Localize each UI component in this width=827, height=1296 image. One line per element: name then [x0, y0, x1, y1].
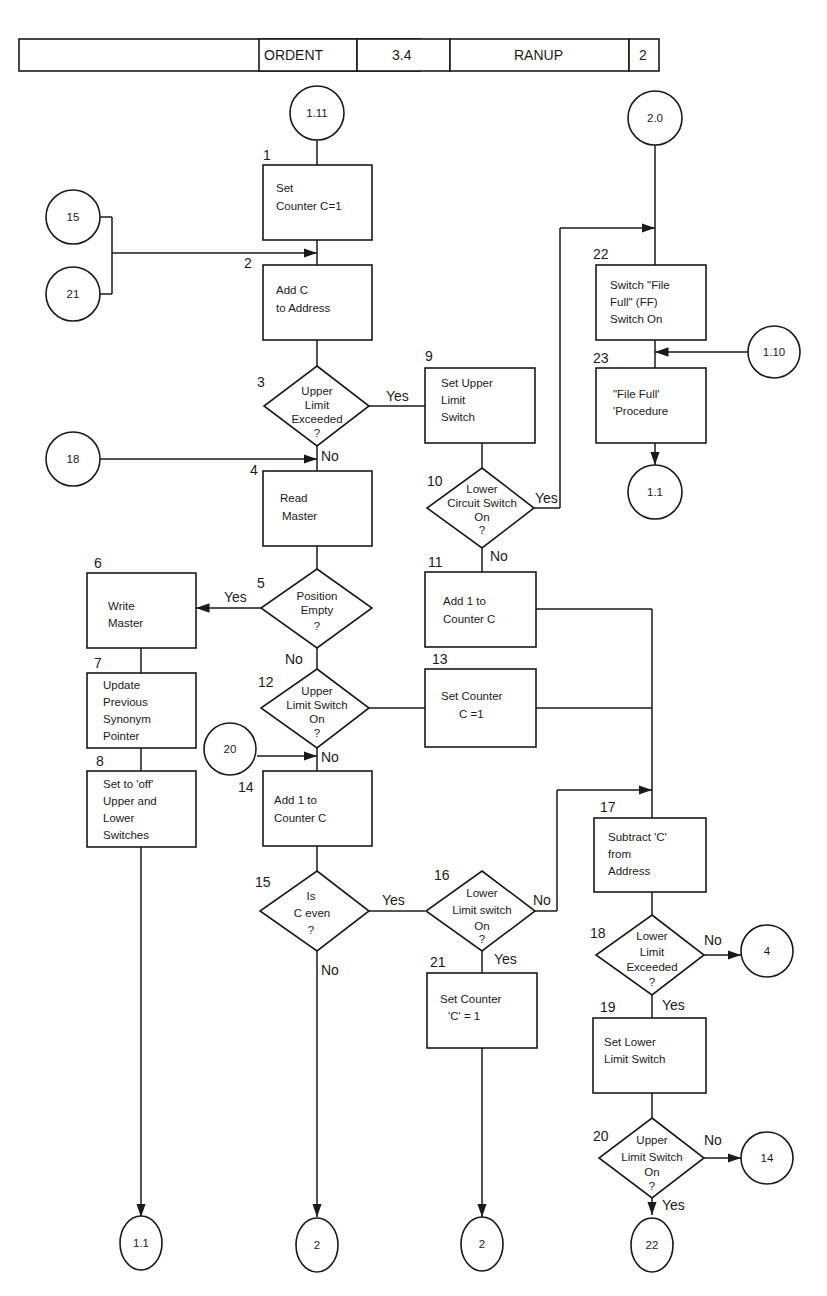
svg-text:Upper: Upper: [636, 1134, 667, 1146]
svg-text:Lower: Lower: [466, 483, 497, 495]
svg-text:Switch "File: Switch "File: [610, 279, 670, 291]
svg-text:2: 2: [244, 255, 252, 271]
svg-text:Is: Is: [307, 890, 316, 902]
connector-21: 21: [46, 267, 100, 321]
decision-3-upper-limit-exceeded: 3 Upper Limit Exceeded ?: [257, 366, 369, 446]
svg-text:Empty: Empty: [301, 604, 334, 616]
svg-text:Set Counter: Set Counter: [441, 690, 503, 702]
svg-text:Subtract 'C': Subtract 'C': [608, 831, 667, 843]
svg-text:8: 8: [96, 753, 104, 769]
dec10-no-label: No: [490, 548, 508, 564]
svg-text:14: 14: [238, 779, 254, 795]
step-2-add-c-to-address: 2 Add C to Address: [244, 255, 372, 340]
svg-text:Lower: Lower: [466, 887, 497, 899]
svg-text:13: 13: [432, 651, 448, 667]
svg-text:On: On: [474, 511, 489, 523]
svg-text:18: 18: [590, 925, 606, 941]
svg-text:Limit Switch: Limit Switch: [286, 699, 347, 711]
connector-2-0: 2.0: [628, 91, 682, 145]
svg-text:On: On: [309, 713, 324, 725]
svg-text:1.1: 1.1: [647, 486, 663, 498]
svg-text:Write: Write: [108, 600, 135, 612]
svg-text:18: 18: [67, 453, 80, 465]
svg-text:12: 12: [258, 674, 274, 690]
svg-text:Add 1 to: Add 1 to: [274, 794, 317, 806]
svg-text:22: 22: [646, 1239, 659, 1251]
connector-4: 4: [741, 925, 793, 977]
svg-text:?: ?: [479, 524, 485, 536]
svg-text:20: 20: [593, 1128, 609, 1144]
connector-1-1-top: 1.1: [628, 465, 682, 519]
svg-text:Circuit Switch: Circuit Switch: [447, 497, 517, 509]
svg-text:Update: Update: [103, 679, 140, 691]
step-4-read-master: 4 Read Master: [250, 462, 372, 546]
svg-text:"File Full': "File Full': [613, 388, 660, 400]
svg-text:10: 10: [427, 473, 443, 489]
svg-text:Set: Set: [276, 182, 294, 194]
svg-text:Upper and: Upper and: [103, 795, 157, 807]
svg-text:On: On: [644, 1166, 659, 1178]
svg-text:Limit: Limit: [441, 394, 466, 406]
svg-text:?: ?: [308, 924, 314, 936]
dec18-yes-label: Yes: [662, 997, 685, 1013]
decision-18-lower-limit-exceeded: 18 Lower Limit Exceeded ?: [590, 915, 704, 995]
svg-text:11: 11: [428, 554, 443, 570]
svg-text:3: 3: [257, 374, 265, 390]
svg-text:Counter C: Counter C: [274, 812, 326, 824]
svg-text:Master: Master: [282, 510, 317, 522]
svg-text:6: 6: [94, 555, 102, 571]
dec10-yes-label: Yes: [535, 490, 558, 506]
svg-text:4: 4: [250, 462, 258, 478]
connector-18: 18: [46, 432, 100, 486]
dec5-yes-label: Yes: [224, 589, 247, 605]
svg-text:from: from: [608, 848, 631, 860]
svg-text:Limit: Limit: [305, 399, 330, 411]
decision-20-upper-limit-switch-on: 20 Upper Limit Switch On ?: [593, 1118, 704, 1198]
connector-20: 20: [204, 723, 256, 775]
svg-text:C even: C even: [294, 907, 330, 919]
dec15-no-label: No: [321, 962, 339, 978]
svg-text:Master: Master: [108, 617, 143, 629]
svg-text:On: On: [474, 920, 489, 932]
svg-text:23: 23: [593, 350, 609, 366]
dec16-yes-label: Yes: [494, 951, 517, 967]
svg-text:Add C: Add C: [276, 284, 308, 296]
connector-1-1-bottom: 1.1: [120, 1216, 162, 1270]
svg-text:Lower: Lower: [103, 812, 134, 824]
svg-text:5: 5: [257, 575, 265, 591]
svg-text:Counter C: Counter C: [443, 613, 495, 625]
svg-text:4: 4: [764, 945, 771, 957]
svg-text:?: ?: [479, 933, 485, 945]
svg-text:15: 15: [67, 211, 80, 223]
svg-text:Previous: Previous: [103, 696, 148, 708]
svg-text:?: ?: [649, 1180, 655, 1192]
step-9-set-upper-limit-switch: 9 Set Upper Limit Switch: [425, 348, 535, 443]
dec16-no-label: No: [533, 892, 551, 908]
svg-text:1.10: 1.10: [763, 346, 785, 358]
connector-2-right: 2: [461, 1217, 503, 1271]
svg-text:1.11: 1.11: [306, 107, 328, 119]
svg-text:Exceeded: Exceeded: [291, 413, 342, 425]
dec20-yes-label: Yes: [662, 1197, 685, 1213]
decision-16-lower-limit-switch-on: 16 Lower Limit switch On ?: [426, 867, 535, 951]
svg-text:Set Lower: Set Lower: [604, 1036, 656, 1048]
svg-text:Position: Position: [297, 590, 338, 602]
svg-text:Limit: Limit: [640, 946, 665, 958]
dec15-yes-label: Yes: [382, 892, 405, 908]
svg-text:Lower: Lower: [636, 930, 667, 942]
svg-text:Set to 'off': Set to 'off': [103, 778, 153, 790]
connector-15: 15: [46, 190, 100, 244]
svg-text:Exceeded: Exceeded: [626, 961, 677, 973]
svg-text:9: 9: [425, 348, 433, 364]
dec3-yes-label: Yes: [386, 388, 409, 404]
header-section-number: 3.4: [392, 47, 412, 63]
step-6-write-master: 6 Write Master: [87, 555, 196, 648]
svg-text:1.1: 1.1: [133, 1237, 149, 1249]
svg-text:Pointer: Pointer: [103, 730, 140, 742]
dec3-no-label: No: [321, 448, 339, 464]
svg-text:to Address: to Address: [276, 302, 331, 314]
connector-1-11: 1.11: [290, 86, 344, 140]
svg-text:2: 2: [479, 1238, 485, 1250]
step-19-set-lower-limit-switch: 19 Set Lower Limit Switch: [593, 999, 706, 1093]
svg-text:Upper: Upper: [301, 685, 332, 697]
